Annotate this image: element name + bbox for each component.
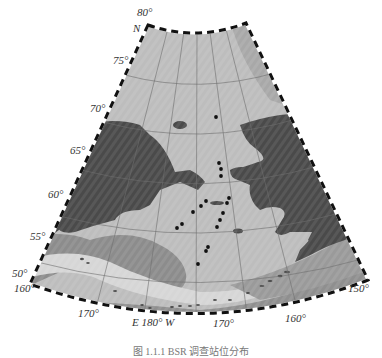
- longitude-label: 170°: [213, 317, 234, 329]
- latitude-label: 80°: [137, 6, 152, 18]
- latitude-label: N: [133, 22, 140, 34]
- station-marker: [219, 174, 223, 178]
- station-marker: [206, 245, 210, 249]
- longitude-label: 170°: [78, 307, 99, 319]
- station-marker: [221, 211, 225, 215]
- station-marker: [214, 115, 218, 119]
- latitude-label: 65°: [70, 144, 85, 156]
- station-marker: [175, 226, 179, 230]
- station-marker: [218, 218, 222, 222]
- longitude-label: 150°: [348, 282, 369, 294]
- station-marker: [215, 225, 219, 229]
- latitude-label: 70°: [90, 102, 105, 114]
- station-marker: [191, 210, 195, 214]
- station-marker: [180, 222, 184, 226]
- latitude-label: 60°: [48, 188, 63, 200]
- longitude-label: 160°: [14, 282, 35, 294]
- station-marker: [204, 249, 208, 253]
- latitude-label: 75°: [113, 54, 128, 66]
- station-marker: [199, 204, 203, 208]
- station-marker: [225, 201, 229, 205]
- station-marker: [227, 196, 231, 200]
- longitude-label: E 180° W: [132, 316, 174, 328]
- latitude-label: 50°: [12, 267, 27, 279]
- longitude-label: 160°: [285, 312, 306, 324]
- station-marker: [217, 161, 221, 165]
- station-marker: [204, 199, 208, 203]
- latitude-label: 55°: [30, 230, 45, 242]
- station-marker: [196, 262, 200, 266]
- station-marker: [219, 167, 223, 171]
- figure-caption: 图 1.1.1 BSR 调查站位分布: [0, 343, 382, 358]
